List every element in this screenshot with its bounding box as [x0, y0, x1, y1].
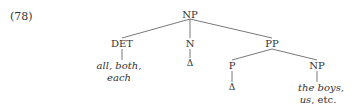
leaf-np-etc: , etc. [311, 94, 336, 105]
leaf-np-line1: the boys, [298, 82, 344, 94]
leaf-np-line2: us, etc. [300, 94, 337, 106]
leaf-det-line1: all, both, [97, 60, 142, 72]
leaf-p-delta: Δ [229, 82, 236, 93]
node-det: DET [111, 38, 133, 49]
node-np-root: NP [182, 9, 197, 20]
node-np: NP [309, 60, 324, 71]
node-p: P [229, 60, 236, 71]
leaf-n-delta: Δ [187, 58, 194, 69]
node-pp: PP [265, 38, 278, 49]
leaf-det-line2: each [107, 72, 131, 84]
leaf-np-us: us [300, 94, 312, 105]
node-n: N [186, 38, 195, 49]
